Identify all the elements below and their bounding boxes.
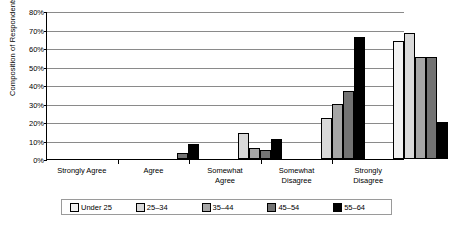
bar-group [296,12,379,159]
x-tick-mark [189,160,190,164]
x-tick-mark [332,160,333,164]
x-axis-ticks [46,160,404,165]
y-tick-label: 0% [33,156,44,165]
legend-item[interactable]: 25–34 [128,203,194,212]
y-tick-label: 60% [29,45,44,54]
x-axis-category-label-line: Agree [118,166,190,176]
x-axis-category-label-line: Somewhat [261,166,333,176]
bar [354,37,365,159]
bar [238,133,249,159]
legend-swatch-icon [136,203,145,212]
x-axis-category-label-line: Disagree [332,176,404,186]
x-tick-mark [261,160,262,164]
x-axis-labels: Strongly AgreeAgreeSomewhatAgreeSomewhat… [46,166,404,185]
bar [404,33,415,159]
plot-area: 80%70%60%50%40%30%20%10%0% [46,12,404,160]
y-tick-label: 10% [29,137,44,146]
bar [321,118,332,159]
x-axis-category-label-line: Somewhat [189,166,261,176]
legend-item[interactable]: Under 25 [62,203,128,212]
legend-swatch-icon [202,203,211,212]
legend-label: 55–64 [344,203,365,212]
bar [249,148,260,159]
legend-label: 35–44 [213,203,234,212]
bar-group [47,12,130,159]
bar [415,57,426,159]
x-axis-category-label-line: Disagree [261,176,333,186]
x-axis-category-label-line: Strongly [332,166,404,176]
legend-item[interactable]: 35–44 [194,203,260,212]
x-axis-category-label: Agree [118,166,190,185]
x-axis-category-label: SomewhatDisagree [261,166,333,185]
legend-swatch-icon [333,203,342,212]
x-axis-category-label: StronglyDisagree [332,166,404,185]
x-tick-mark [118,160,119,164]
bar [271,139,282,159]
bar [188,144,199,159]
y-tick-label: 30% [29,100,44,109]
legend-swatch-icon [267,203,276,212]
y-axis-title: Composition of Respondents [8,0,17,117]
bar [426,57,437,159]
y-tick-label: 50% [29,63,44,72]
bar [177,153,188,159]
bar [393,41,404,159]
chart-legend: Under 2525–3435–4445–5455–64 [61,199,392,215]
y-tick-label: 70% [29,26,44,35]
bar [332,104,343,160]
legend-item[interactable]: 55–64 [325,203,391,212]
y-tick-label: 80% [29,8,44,17]
bar-group [130,12,213,159]
x-axis-category-label: SomewhatAgree [189,166,261,185]
y-tick-label: 20% [29,119,44,128]
legend-swatch-icon [70,203,79,212]
bar-groups [47,12,404,159]
legend-label: 45–54 [278,203,299,212]
y-tick-label: 40% [29,82,44,91]
x-axis-category-label-line: Agree [189,176,261,186]
bar [437,122,448,159]
bar-group [213,12,296,159]
x-axis-category-label: Strongly Agree [46,166,118,185]
x-axis-category-label-line: Strongly Agree [46,166,118,176]
bar [343,91,354,159]
bar-group [379,12,452,159]
legend-label: 25–34 [147,203,168,212]
legend-label: Under 25 [81,203,112,212]
legend-item[interactable]: 45–54 [259,203,325,212]
bar [260,150,271,159]
